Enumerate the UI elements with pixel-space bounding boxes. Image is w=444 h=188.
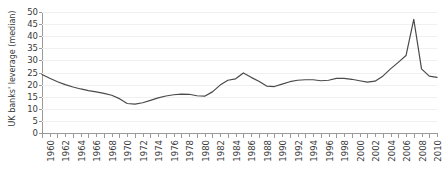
x-tick-mark bbox=[143, 134, 144, 137]
x-tick-label: 1982 bbox=[216, 140, 226, 162]
x-tick-mark bbox=[414, 134, 415, 138]
x-tick-label: 1966 bbox=[92, 140, 102, 162]
x-tick-label: 1972 bbox=[139, 140, 149, 162]
y-axis-title: UK banks' leverage (median) bbox=[8, 3, 17, 135]
x-tick-mark bbox=[429, 134, 430, 138]
x-tick-mark bbox=[267, 134, 268, 137]
x-tick-mark bbox=[127, 134, 128, 137]
x-tick-label: 1992 bbox=[294, 140, 304, 162]
x-tick-label: 1978 bbox=[185, 140, 195, 162]
y-tick-label: 40 bbox=[27, 31, 38, 41]
x-tick-mark bbox=[243, 134, 244, 138]
x-tick-mark bbox=[212, 134, 213, 138]
x-axis-ticks: 1960196219641966196819701972197419761978… bbox=[42, 134, 438, 188]
x-tick-label: 1962 bbox=[61, 140, 71, 162]
x-tick-mark bbox=[321, 134, 322, 138]
y-tick-label: 35 bbox=[27, 43, 38, 53]
x-tick-label: 1994 bbox=[309, 140, 319, 162]
x-tick-mark bbox=[375, 134, 376, 137]
x-tick-mark bbox=[236, 134, 237, 137]
x-tick-mark bbox=[174, 134, 175, 137]
x-tick-mark bbox=[360, 134, 361, 137]
x-tick-label: 1976 bbox=[170, 140, 180, 162]
y-tick-label: 30 bbox=[27, 55, 38, 65]
y-tick-label: 5 bbox=[33, 116, 38, 126]
x-tick-label: 2000 bbox=[356, 140, 366, 162]
x-tick-label: 1960 bbox=[46, 140, 56, 162]
x-tick-label: 1998 bbox=[340, 140, 350, 162]
x-tick-mark bbox=[290, 134, 291, 138]
x-tick-label: 1984 bbox=[232, 140, 242, 162]
y-tick-label: 10 bbox=[27, 104, 38, 114]
x-tick-mark bbox=[57, 134, 58, 138]
y-tick-label: 25 bbox=[27, 68, 38, 78]
x-tick-mark bbox=[197, 134, 198, 138]
x-tick-mark bbox=[205, 134, 206, 137]
x-tick-label: 1974 bbox=[154, 140, 164, 162]
y-tick-label: 0 bbox=[33, 128, 38, 138]
x-tick-mark bbox=[181, 134, 182, 138]
x-tick-mark bbox=[189, 134, 190, 137]
x-tick-mark bbox=[73, 134, 74, 138]
x-tick-mark bbox=[88, 134, 89, 138]
x-tick-mark bbox=[104, 134, 105, 138]
x-tick-label: 1980 bbox=[201, 140, 211, 162]
x-tick-mark bbox=[298, 134, 299, 137]
x-tick-mark bbox=[336, 134, 337, 138]
x-tick-mark bbox=[96, 134, 97, 137]
x-tick-mark bbox=[313, 134, 314, 137]
x-tick-label: 2010 bbox=[433, 140, 443, 162]
x-tick-mark bbox=[383, 134, 384, 138]
x-tick-label: 2008 bbox=[418, 140, 428, 162]
x-tick-mark bbox=[406, 134, 407, 137]
plot-area: 05101520253035404550 bbox=[42, 12, 437, 133]
x-tick-mark bbox=[367, 134, 368, 138]
x-tick-mark bbox=[65, 134, 66, 137]
x-tick-mark bbox=[305, 134, 306, 138]
y-tick-label: 50 bbox=[27, 7, 38, 17]
x-tick-mark bbox=[437, 134, 438, 137]
x-tick-label: 1968 bbox=[108, 140, 118, 162]
x-tick-label: 1986 bbox=[247, 140, 257, 162]
x-tick-mark bbox=[259, 134, 260, 138]
x-tick-mark bbox=[329, 134, 330, 137]
x-tick-mark bbox=[422, 134, 423, 137]
x-tick-label: 1970 bbox=[123, 140, 133, 162]
x-tick-mark bbox=[352, 134, 353, 138]
x-tick-mark bbox=[81, 134, 82, 137]
x-tick-mark bbox=[50, 134, 51, 137]
x-tick-mark bbox=[344, 134, 345, 137]
x-tick-label: 1990 bbox=[278, 140, 288, 162]
x-tick-mark bbox=[391, 134, 392, 137]
y-tick-label: 20 bbox=[27, 80, 38, 90]
x-tick-label: 1996 bbox=[325, 140, 335, 162]
x-tick-mark bbox=[274, 134, 275, 138]
x-tick-mark bbox=[150, 134, 151, 138]
chart-figure: UK banks' leverage (median) 051015202530… bbox=[0, 0, 444, 188]
x-tick-mark bbox=[398, 134, 399, 138]
y-tick-label: 45 bbox=[27, 19, 38, 29]
x-tick-mark bbox=[282, 134, 283, 137]
y-tick-label: 15 bbox=[27, 92, 38, 102]
x-tick-mark bbox=[112, 134, 113, 137]
x-tick-mark bbox=[166, 134, 167, 138]
x-tick-label: 2004 bbox=[387, 140, 397, 162]
x-tick-mark bbox=[119, 134, 120, 138]
x-tick-label: 1988 bbox=[263, 140, 273, 162]
x-tick-mark bbox=[135, 134, 136, 138]
x-tick-mark bbox=[158, 134, 159, 137]
data-line bbox=[42, 12, 437, 133]
x-tick-label: 2002 bbox=[371, 140, 381, 162]
x-tick-mark bbox=[220, 134, 221, 137]
x-tick-label: 1964 bbox=[77, 140, 87, 162]
x-tick-mark bbox=[42, 134, 43, 138]
x-tick-label: 2006 bbox=[402, 140, 412, 162]
x-tick-mark bbox=[251, 134, 252, 137]
x-tick-mark bbox=[228, 134, 229, 138]
